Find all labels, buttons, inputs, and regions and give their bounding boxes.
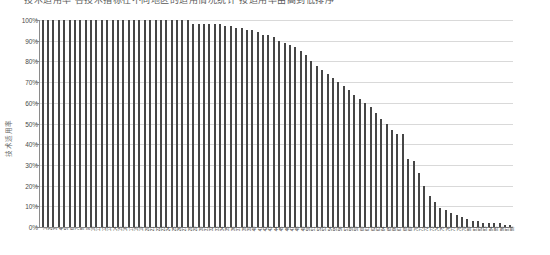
bar (289, 45, 291, 227)
bar (267, 35, 269, 228)
y-axis-tickmark (36, 61, 39, 62)
y-axis-tick-labels: 0%10%20%30%40%50%60%70%80%90%100% (14, 14, 39, 227)
bar (434, 202, 436, 227)
x-axis-tick-label: 88 (510, 227, 515, 232)
bar (257, 32, 259, 227)
bar (364, 103, 366, 227)
bar (386, 124, 388, 228)
y-axis-tickmark (36, 41, 39, 42)
bar (117, 20, 119, 227)
bar (42, 20, 44, 227)
chart-title-text: 技术适用率 各技术指标在不同地区的适用情况统计 按适用率由高到低排序 (0, 0, 550, 7)
y-axis-tickmark (36, 227, 39, 228)
bar (348, 90, 350, 227)
bar (235, 28, 237, 227)
chart-title-clipped: 技术适用率 各技术指标在不同地区的适用情况统计 按适用率由高到低排序 (0, 0, 550, 7)
bar (423, 186, 425, 227)
bar (155, 20, 157, 227)
bar (52, 20, 54, 227)
y-axis-tickmark (36, 206, 39, 207)
y-axis-tickmark (36, 103, 39, 104)
bar (456, 215, 458, 227)
bar (273, 37, 275, 227)
bar (230, 26, 232, 227)
bar (181, 20, 183, 227)
bar (310, 61, 312, 227)
bar (337, 82, 339, 227)
bar (396, 134, 398, 227)
bar (69, 20, 71, 227)
bar (122, 20, 124, 227)
chart-screenshot: 技术适用率 各技术指标在不同地区的适用情况统计 按适用率由高到低排序 技术适用率… (0, 0, 550, 255)
bar (176, 20, 178, 227)
bar (203, 24, 205, 227)
bar-series (40, 20, 513, 227)
bar (262, 35, 264, 228)
bar (187, 20, 189, 227)
bar (85, 20, 87, 227)
bar (327, 74, 329, 227)
bar (208, 24, 210, 227)
bar (445, 210, 447, 227)
bar (418, 173, 420, 227)
bar (101, 20, 103, 227)
bar (278, 41, 280, 227)
bar (90, 20, 92, 227)
y-axis-tickmark (36, 124, 39, 125)
bar (359, 99, 361, 227)
bar (343, 86, 345, 227)
y-axis-tickmark (36, 165, 39, 166)
bar (144, 20, 146, 227)
bar (380, 119, 382, 227)
y-axis-tickmark (36, 20, 39, 21)
bar (402, 134, 404, 227)
bar (128, 20, 130, 227)
bar (112, 20, 114, 227)
bar (300, 51, 302, 227)
bar (224, 26, 226, 227)
bar (284, 43, 286, 227)
y-axis-tickmark (36, 82, 39, 83)
y-axis-tickmark (36, 144, 39, 145)
bar (370, 107, 372, 227)
bar-chart: 技术适用率 0%10%20%30%40%50%60%70%80%90%100% … (0, 14, 550, 255)
bar (407, 159, 409, 227)
bar (450, 213, 452, 227)
plot-area (40, 20, 513, 227)
bar (321, 70, 323, 227)
bar (439, 208, 441, 227)
bar (375, 113, 377, 227)
x-axis-tick-labels: 1234567891011121314151617181920212223242… (40, 228, 513, 254)
bar (160, 20, 162, 227)
x-axis-tick: 88 (508, 228, 513, 254)
bar (316, 66, 318, 227)
bar-slot (508, 20, 513, 227)
bar (79, 20, 81, 227)
bar (391, 130, 393, 227)
bar (58, 20, 60, 227)
bar (192, 24, 194, 227)
bar (241, 28, 243, 227)
bar (214, 24, 216, 227)
bar (95, 20, 97, 227)
y-axis-title-label: 技术适用率 (3, 119, 13, 157)
bar (353, 95, 355, 227)
bar (198, 24, 200, 227)
bar (332, 78, 334, 227)
bar (413, 161, 415, 227)
y-axis-title: 技术适用率 (2, 98, 14, 178)
bar (133, 20, 135, 227)
bar (74, 20, 76, 227)
bar (138, 20, 140, 227)
bar (305, 55, 307, 227)
bar (47, 20, 49, 227)
y-axis-tickmark (36, 186, 39, 187)
bar (149, 20, 151, 227)
bar (429, 196, 431, 227)
bar (219, 24, 221, 227)
bar (246, 30, 248, 227)
bar (165, 20, 167, 227)
bar (294, 47, 296, 227)
bar (251, 30, 253, 227)
bar (171, 20, 173, 227)
